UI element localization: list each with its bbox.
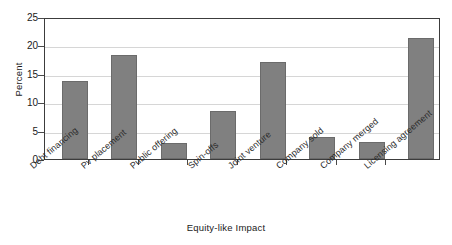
gridline [45,76,439,77]
y-tick-label: 20 [14,41,38,51]
bar-debt-financing [62,81,88,159]
x-axis-title: Equity-like Impact [0,222,452,233]
bar-joint-venture [260,62,286,159]
y-tick-label: 10 [14,98,38,108]
gridline [45,47,439,48]
bar-licensing-agreement [408,38,434,159]
gridline [45,104,439,105]
gridline [45,133,439,134]
plot-area [44,18,440,160]
bar-public-offering [161,143,187,159]
y-axis-tick-labels: 25 20 15 10 5 0 [12,0,38,245]
y-tick-label: 15 [14,70,38,80]
x-tick-mark [385,160,386,165]
bar-chart: Percent 25 20 15 10 5 0 Debt financing P [0,0,452,245]
y-tick-label: 25 [14,13,38,23]
y-tick-label: 5 [14,127,38,137]
